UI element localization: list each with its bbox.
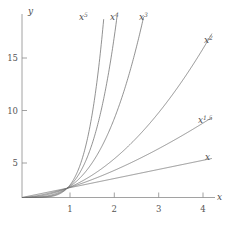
curve-x-1.5: [22, 118, 212, 198]
x-tick-label-4: 4: [200, 204, 205, 214]
y-tick-label-15: 15: [7, 53, 18, 63]
curve-label-x1: x: [205, 152, 210, 162]
curve-x-4: [22, 17, 117, 197]
curve-label-x4: x4: [110, 11, 119, 23]
x-tick-label-3: 3: [156, 204, 161, 214]
y-tick-label-10: 10: [7, 106, 18, 116]
curve-label-x3: x3: [139, 11, 148, 23]
x-axis-label: x: [217, 192, 222, 202]
curve-x-2: [22, 34, 212, 198]
curve-x: [22, 158, 212, 197]
curve-label-x2: x2: [204, 34, 213, 46]
plot-area: 15 10 5 1 2 3 4 y x x5 x4 x3 x2 x1.5 x: [0, 0, 229, 226]
x-tick-label-2: 2: [112, 204, 117, 214]
y-axis-label: y: [27, 6, 34, 16]
power-functions-chart: 15 10 5 1 2 3 4 y x x5 x4 x3 x2 x1.5 x: [0, 0, 229, 226]
curve-label-x15: x1.5: [198, 114, 213, 126]
y-tick-label-5: 5: [13, 158, 18, 168]
curve-label-x5: x5: [79, 11, 88, 23]
curve-x-3: [22, 17, 144, 197]
x-tick-label-1: 1: [67, 204, 72, 214]
curve-x-5: [22, 19, 104, 197]
